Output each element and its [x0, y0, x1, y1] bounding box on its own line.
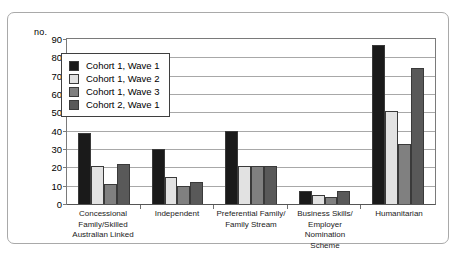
legend-item: Cohort 1, Wave 2 — [69, 72, 160, 85]
legend-item-label: Cohort 1, Wave 3 — [86, 86, 160, 97]
bar — [238, 166, 251, 205]
x-axis-label-line: Australian Linked — [67, 230, 139, 241]
y-axis-tick-label: 40 — [51, 125, 62, 136]
x-axis-label-line: Preferential Family/ — [215, 209, 287, 220]
legend-swatch-icon — [69, 100, 79, 110]
x-axis-labels: ConcessionalFamily/SkilledAustralian Lin… — [66, 209, 436, 251]
legend-item-label: Cohort 2, Wave 1 — [86, 99, 160, 110]
chart-frame: no. 0102030405060708090 ConcessionalFami… — [7, 12, 449, 244]
x-axis-label-line: Family Stream — [215, 220, 287, 231]
x-axis-label-line: Concessional — [67, 209, 139, 220]
bar — [225, 131, 238, 204]
x-axis-label: ConcessionalFamily/SkilledAustralian Lin… — [66, 209, 140, 251]
y-axis-unit-label: no. — [34, 27, 47, 37]
legend-item-label: Cohort 1, Wave 1 — [86, 60, 160, 71]
bar — [372, 45, 385, 205]
legend-item: Cohort 1, Wave 3 — [69, 85, 160, 98]
bar — [398, 144, 411, 205]
bar-group — [214, 39, 288, 204]
x-axis-label-line: Family/Skilled — [67, 220, 139, 231]
bar — [312, 195, 325, 204]
bar — [78, 133, 91, 205]
y-axis-tick-label: 30 — [51, 144, 62, 155]
x-axis-label-line: Scheme — [289, 241, 361, 252]
x-axis-label: Preferential Family/Family Stream — [214, 209, 288, 251]
bar — [117, 164, 130, 204]
legend-swatch-icon — [69, 74, 79, 84]
x-axis-label-line: Employer Nomination — [289, 220, 361, 241]
legend-item: Cohort 2, Wave 1 — [69, 98, 160, 111]
bar — [152, 149, 165, 204]
legend-swatch-icon — [69, 87, 79, 97]
bar — [104, 184, 117, 204]
bar — [165, 177, 178, 205]
bar-group — [361, 39, 435, 204]
y-axis-tick-mark — [63, 204, 67, 205]
x-axis-label: Humanitarian — [362, 209, 436, 251]
bar — [337, 191, 350, 204]
y-axis-tick-label: 20 — [51, 162, 62, 173]
bar — [385, 111, 398, 205]
x-axis-label-line: Humanitarian — [363, 209, 435, 220]
x-axis-label: Business Skills/Employer NominationSchem… — [288, 209, 362, 251]
bar — [299, 191, 312, 204]
x-axis-label: Independent — [140, 209, 214, 251]
legend-item-label: Cohort 1, Wave 2 — [86, 73, 160, 84]
bar — [177, 186, 190, 204]
bar-group-bars — [299, 39, 351, 204]
bar-group-bars — [372, 39, 424, 204]
bar — [91, 166, 104, 205]
bar — [264, 166, 277, 205]
bar-group-bars — [225, 39, 277, 204]
bar — [325, 197, 338, 204]
y-axis-tick-label: 0 — [57, 199, 62, 210]
x-axis-label-line: Independent — [141, 209, 213, 220]
bar — [411, 68, 424, 204]
chart-legend: Cohort 1, Wave 1Cohort 1, Wave 2Cohort 1… — [61, 53, 170, 117]
legend-item: Cohort 1, Wave 1 — [69, 59, 160, 72]
bar — [251, 166, 264, 205]
y-axis-tick-label: 90 — [51, 34, 62, 45]
bar-group — [288, 39, 362, 204]
legend-swatch-icon — [69, 61, 79, 71]
bar — [190, 182, 203, 204]
y-axis-tick-label: 10 — [51, 180, 62, 191]
x-axis-label-line: Business Skills/ — [289, 209, 361, 220]
